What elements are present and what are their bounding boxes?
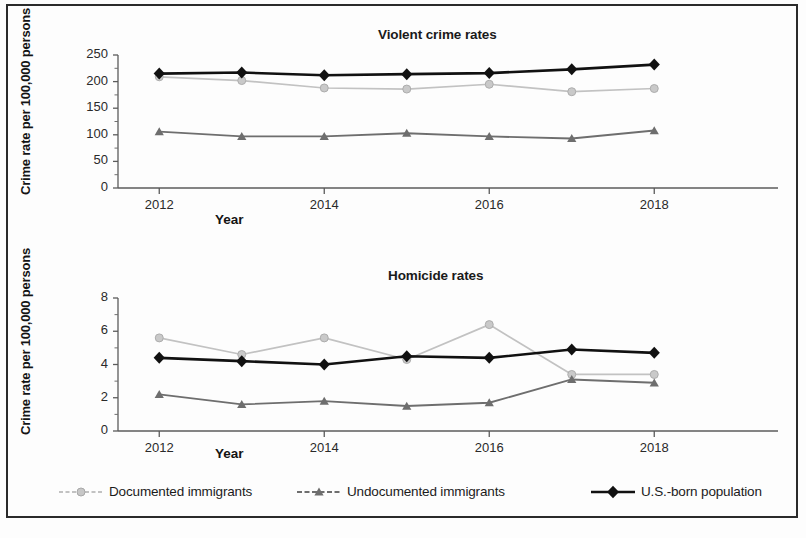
x-axis-tick-label: 2016 [459,440,519,455]
y-axis-tick-label: 4 [60,356,108,371]
y-axis-tick-label: 50 [60,152,108,167]
x-axis-tick-label: 2018 [624,440,684,455]
data-point-documented [403,85,411,93]
data-point-usborn [566,63,577,75]
chart-title-violent-crime: Violent crime rates [378,27,497,42]
chart-title-homicide: Homicide rates [388,268,483,283]
data-point-usborn [319,69,330,81]
data-point-usborn [319,359,330,371]
y-axis-tick-label: 0 [60,179,108,194]
y-axis-label-violent-crime: Crime rate per 100,000 persons [18,20,34,195]
y-axis-tick-label: 2 [60,389,108,404]
x-axis-tick-label: 2016 [459,197,519,212]
legend-label-undocumented-immigrants: Undocumented immigrants [347,484,505,499]
series-usborn [154,59,660,82]
data-point-documented [650,85,658,93]
legend-item-undocumented-immigrants: Undocumented immigrants [296,484,505,499]
series-undocumented [155,375,659,410]
data-point-usborn [566,344,577,356]
plot-svg-violent-crime [118,55,778,188]
data-point-documented [155,334,163,342]
chart-panel-homicide: Homicide rates Crime rate per 100,000 pe… [0,250,806,475]
data-point-usborn [649,347,660,359]
x-axis-tick-label: 2014 [294,197,354,212]
legend-swatch-usborn-icon [590,485,636,499]
data-point-usborn [484,352,495,364]
y-axis-tick-label: 200 [60,73,108,88]
x-axis-tick-label: 2018 [624,197,684,212]
y-axis-tick-label: 0 [60,422,108,437]
y-axis-tick-label: 8 [60,289,108,304]
plot-area-violent-crime [118,55,778,188]
legend-label-usborn-population: U.S.-born population [641,484,762,499]
plot-svg-homicide [118,298,778,431]
legend-item-usborn-population: U.S.-born population [590,484,762,499]
data-point-usborn [236,67,247,79]
y-axis-tick-label: 150 [60,99,108,114]
x-axis-label-homicide: Year [215,446,244,461]
x-axis-label-violent-crime: Year [215,212,244,227]
series-undocumented [155,126,659,142]
y-axis-label-homicide: Crime rate per 100,000 persons [18,260,34,435]
series-usborn [154,344,660,371]
legend-item-documented-immigrants: Documented immigrants [58,484,252,499]
legend-label-documented-immigrants: Documented immigrants [109,484,252,499]
chart-panel-violent-crime: Violent crime rates Crime rate per 100,0… [0,0,806,250]
data-point-documented [320,334,328,342]
data-point-documented [485,321,493,329]
legend-swatch-documented-icon [58,485,104,499]
data-point-documented [650,370,658,378]
data-point-usborn [401,68,412,80]
legend-swatch-undocumented-icon [296,485,342,499]
data-point-usborn [484,67,495,79]
y-axis-tick-label: 100 [60,126,108,141]
figure-container: Violent crime rates Crime rate per 100,0… [0,0,806,538]
y-axis-tick-label: 250 [60,46,108,61]
data-point-documented [485,80,493,88]
data-point-documented [568,88,576,96]
data-point-usborn [649,59,660,71]
x-axis-tick-label: 2014 [294,440,354,455]
data-point-documented [320,84,328,92]
plot-area-homicide [118,298,778,431]
y-axis-tick-label: 6 [60,322,108,337]
x-axis-tick-label: 2012 [129,197,189,212]
chart-legend: Documented immigrants Undocumented immig… [0,480,806,520]
data-point-usborn [154,352,165,364]
data-point-usborn [236,355,247,367]
x-axis-tick-label: 2012 [129,440,189,455]
